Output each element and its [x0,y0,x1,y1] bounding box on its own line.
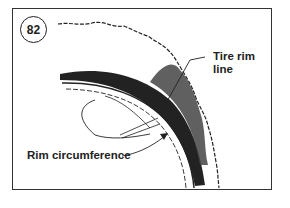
rim-circumference-label: Rim circumference [27,149,131,162]
tire-rim-line-label: Tire rim line [213,50,255,76]
rim-flange [82,100,150,138]
figure-number: 82 [27,23,40,37]
figure-number-badge: 82 [20,16,47,43]
tire-rim-line-label-2: line [213,63,255,76]
tire-rim-line-label-1: Tire rim [213,50,255,63]
rim-spoke [120,118,160,138]
